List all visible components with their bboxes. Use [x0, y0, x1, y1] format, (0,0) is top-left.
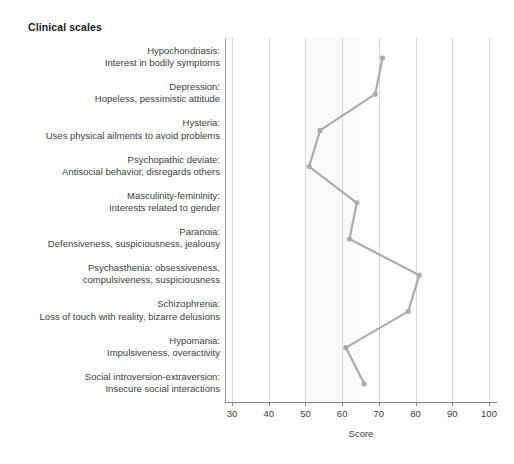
- category-label-line1: Psychasthenia: obsessiveness,: [83, 262, 220, 274]
- category-label-line2: Hopeless, pessimistic attitude: [95, 93, 220, 105]
- data-point[interactable]: [318, 128, 323, 133]
- category-label: Masculinity-femininity:Interests related…: [109, 190, 220, 214]
- category-label: Depression:Hopeless, pessimistic attitud…: [95, 81, 220, 105]
- category-label-line1: Hysteria:: [46, 117, 220, 129]
- category-label: Social introversion-extraversion:Insecur…: [85, 371, 220, 395]
- tick-label-100: 100: [481, 408, 497, 419]
- plot-frame: 30405060708090100 Score: [225, 38, 497, 402]
- x-axis-spine: [225, 402, 497, 403]
- data-point[interactable]: [406, 309, 411, 314]
- category-label-line2: compulsiveness, suspiciousness: [83, 274, 220, 286]
- tick-50: [305, 402, 306, 406]
- tick-label-60: 60: [337, 408, 348, 419]
- tick-70: [379, 402, 380, 406]
- tick-100: [489, 402, 490, 406]
- series-line: [225, 38, 497, 402]
- category-label: Schizophrenia:Loss of touch with reality…: [40, 298, 220, 322]
- category-label-line1: Psychopathic deviate:: [62, 154, 220, 166]
- page-title: Clinical scales: [28, 21, 102, 33]
- score-line: [309, 58, 419, 384]
- category-label-line1: Social introversion-extraversion:: [85, 371, 220, 383]
- category-label: Hysteria:Uses physical ailments to avoid…: [46, 117, 220, 141]
- data-point[interactable]: [307, 164, 312, 169]
- category-label: Psychasthenia: obsessiveness,compulsiven…: [83, 262, 220, 286]
- data-point[interactable]: [354, 200, 359, 205]
- category-label-line1: Paranoia:: [48, 226, 220, 238]
- tick-label-90: 90: [447, 408, 458, 419]
- data-point[interactable]: [417, 273, 422, 278]
- category-label-line1: Masculinity-femininity:: [109, 190, 220, 202]
- category-label-line2: Antisocial behavior, disregards others: [62, 166, 220, 178]
- category-label-line2: Interest in bodily symptoms: [105, 57, 220, 69]
- category-label-line2: Interests related to gender: [109, 202, 220, 214]
- tick-30: [232, 402, 233, 406]
- tick-label-40: 40: [263, 408, 274, 419]
- data-point[interactable]: [373, 92, 378, 97]
- category-label-line1: Depression:: [95, 81, 220, 93]
- tick-80: [416, 402, 417, 406]
- category-label-line2: Loss of touch with reality, bizarre delu…: [40, 311, 220, 323]
- data-point[interactable]: [347, 236, 352, 241]
- category-label-line2: Insecure social interactions: [85, 383, 220, 395]
- category-label-line2: Defensiveness, suspiciousness, jealousy: [48, 238, 220, 250]
- data-point[interactable]: [362, 381, 367, 386]
- category-label: Hypochondriasis:Interest in bodily sympt…: [105, 45, 220, 69]
- x-axis-label: Score: [349, 428, 374, 439]
- data-point[interactable]: [343, 345, 348, 350]
- category-label: Paranoia:Defensiveness, suspiciousness, …: [48, 226, 220, 250]
- category-label-line2: Impulsiveness, overactivity: [107, 347, 220, 359]
- category-label-line1: Schizophrenia:: [40, 298, 220, 310]
- tick-label-80: 80: [410, 408, 421, 419]
- tick-40: [269, 402, 270, 406]
- plot-area: 30405060708090100 Score: [225, 38, 497, 402]
- category-label-line2: Uses physical ailments to avoid problems: [46, 130, 220, 142]
- data-point[interactable]: [380, 55, 385, 60]
- tick-label-50: 50: [300, 408, 311, 419]
- tick-label-70: 70: [374, 408, 385, 419]
- tick-90: [452, 402, 453, 406]
- chart-page: Clinical scales 30405060708090100 Score …: [0, 0, 514, 464]
- category-label: Hypomania:Impulsiveness, overactivity: [107, 335, 220, 359]
- category-label: Psychopathic deviate:Antisocial behavior…: [62, 154, 220, 178]
- tick-label-30: 30: [227, 408, 238, 419]
- category-label-line1: Hypomania:: [107, 335, 220, 347]
- category-label-line1: Hypochondriasis:: [105, 45, 220, 57]
- tick-60: [342, 402, 343, 406]
